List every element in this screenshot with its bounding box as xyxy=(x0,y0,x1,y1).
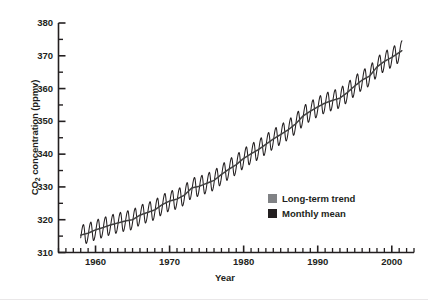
x-axis-tick-labels: 19601970198019902000 xyxy=(0,256,428,270)
bottom-divider xyxy=(0,299,428,300)
legend-label: Monthly mean xyxy=(282,208,346,219)
x-axis-tick-label: 1980 xyxy=(221,256,267,267)
x-axis-tick-label: 1970 xyxy=(147,256,193,267)
y-axis-ticks xyxy=(59,23,66,253)
x-axis-tick-label: 1960 xyxy=(73,256,119,267)
co2-concentration-chart: CO2 concentration (ppmv) 310320330340350… xyxy=(0,0,428,307)
y-axis-tick-label: 370 xyxy=(23,51,53,61)
y-axis-tick-label: 360 xyxy=(23,84,53,94)
x-axis-ticks xyxy=(59,246,415,253)
y-axis-tick-label: 350 xyxy=(23,116,53,126)
legend-item: Long-term trend xyxy=(268,191,388,206)
x-axis-title: Year xyxy=(190,272,260,283)
x-axis-tick-label: 1990 xyxy=(295,256,341,267)
legend-label: Long-term trend xyxy=(282,193,355,204)
legend-item: Monthly mean xyxy=(268,206,388,221)
x-axis-tick-label: 2000 xyxy=(369,256,415,267)
y-axis-tick-label: 320 xyxy=(23,215,53,225)
y-axis-tick-label: 380 xyxy=(23,18,53,28)
y-axis-tick-label: 330 xyxy=(23,182,53,192)
y-axis-tick-label: 340 xyxy=(23,149,53,159)
legend-swatch xyxy=(268,194,277,203)
chart-legend: Long-term trendMonthly mean xyxy=(268,191,388,221)
legend-swatch xyxy=(268,209,277,218)
